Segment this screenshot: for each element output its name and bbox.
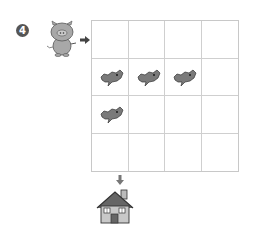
- start-arrow-right-icon: [80, 36, 90, 44]
- grid-cell-r4c4[interactable]: [202, 134, 239, 172]
- wolf-icon: [173, 69, 197, 87]
- grid-cell-r3c2[interactable]: [129, 96, 166, 134]
- wolf-icon: [100, 69, 124, 87]
- grid-cell-r2c4[interactable]: [202, 59, 239, 97]
- grid-cell-r4c3[interactable]: [165, 134, 202, 172]
- goal-arrow-down-icon: [116, 175, 124, 185]
- wolf-icon: [100, 106, 124, 124]
- house-icon: [95, 188, 135, 224]
- grid-cell-r2c1[interactable]: [92, 59, 129, 97]
- grid-cell-r2c3[interactable]: [165, 59, 202, 97]
- grid-cell-r4c1[interactable]: [92, 134, 129, 172]
- pig-icon: [44, 20, 78, 58]
- grid-cell-r1c1[interactable]: [92, 21, 129, 59]
- grid-cell-r3c4[interactable]: [202, 96, 239, 134]
- grid-cell-r2c2[interactable]: [129, 59, 166, 97]
- grid-cell-r1c2[interactable]: [129, 21, 166, 59]
- problem-number-badge: 4: [16, 24, 29, 37]
- grid-cell-r3c1[interactable]: [92, 96, 129, 134]
- maze-grid: [91, 20, 239, 172]
- grid-cell-r1c3[interactable]: [165, 21, 202, 59]
- grid-cell-r1c4[interactable]: [202, 21, 239, 59]
- wolf-icon: [137, 69, 161, 87]
- grid-cell-r3c3[interactable]: [165, 96, 202, 134]
- grid-cell-r4c2[interactable]: [129, 134, 166, 172]
